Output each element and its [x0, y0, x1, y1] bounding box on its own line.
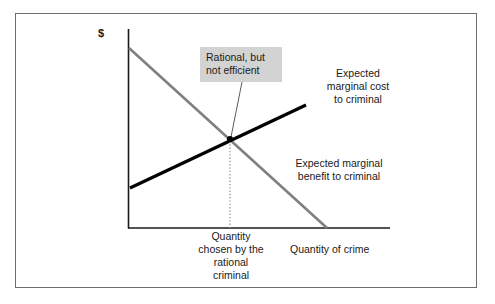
cost-curve-label: Expected marginal cost to criminal — [306, 67, 410, 106]
callout-rational-not-efficient: Rational, but not efficient — [200, 47, 282, 82]
y-axis-label: $ — [98, 27, 104, 40]
equilibrium-point-marker — [227, 136, 233, 142]
economics-diagram-figure: $ Rational, but not efficient Expected m… — [0, 0, 495, 304]
callout-leader-line — [231, 77, 243, 137]
quantity-chosen-note: Quantity chosen by the rational criminal — [184, 230, 278, 282]
cost-curve-line — [130, 105, 306, 188]
benefit-curve-label: Expected marginal benefit to criminal — [283, 157, 395, 183]
x-axis-label: Quantity of crime — [290, 243, 369, 256]
